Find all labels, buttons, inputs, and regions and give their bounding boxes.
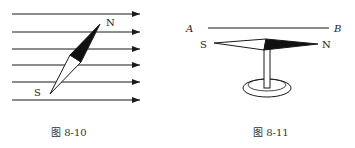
compass-needle-8-10 [50, 24, 100, 94]
needle-south-half [50, 55, 81, 94]
label-n-8-10: N [106, 17, 115, 28]
caption-figure-8-11: 图 8-11 [253, 124, 289, 139]
label-b: B [333, 23, 341, 34]
compass-needle-8-11 [214, 39, 318, 50]
label-a: A [185, 23, 193, 34]
label-n-8-11: N [322, 39, 331, 50]
label-s-8-11: S [200, 39, 207, 50]
needle-north-half [70, 24, 100, 62]
needle-south-half [214, 39, 266, 50]
compass-pivot [264, 47, 270, 88]
needle-north-half [264, 39, 318, 50]
label-s-8-10: S [34, 87, 41, 98]
caption-figure-8-10: 图 8-10 [51, 124, 87, 139]
